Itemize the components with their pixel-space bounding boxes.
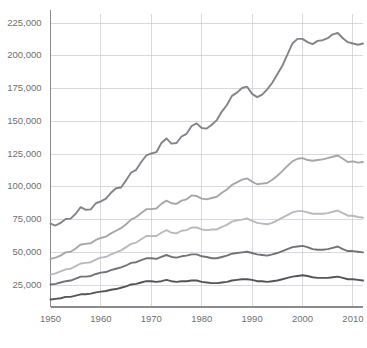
x-tick-label-4: 1990 <box>242 313 263 324</box>
series-line-bottom-line <box>51 275 364 299</box>
y-tick-label-0: 25,000 <box>12 279 41 290</box>
series-line-third-line <box>51 210 364 274</box>
x-tick-label-3: 1980 <box>191 313 212 324</box>
y-tick-label-6: 175,000 <box>7 82 41 93</box>
x-tick-label-0: 1950 <box>40 313 61 324</box>
chart-canvas: 25,00050,00075,000100,000125,000150,0001… <box>0 0 367 348</box>
series-line-top-line <box>51 33 364 226</box>
y-axis-tick-labels: 25,00050,00075,000100,000125,000150,0001… <box>7 17 41 290</box>
x-axis-tick-labels: 1950196019701980199020002010 <box>40 313 364 324</box>
y-tick-label-1: 50,000 <box>12 246 41 257</box>
x-tick-label-2: 1970 <box>141 313 162 324</box>
y-tick-label-7: 200,000 <box>7 49 41 60</box>
x-tick-label-1: 1960 <box>90 313 111 324</box>
data-series-group <box>51 33 364 300</box>
y-tick-label-2: 75,000 <box>12 213 41 224</box>
y-tick-label-3: 100,000 <box>7 180 41 191</box>
x-tick-label-5: 2000 <box>292 313 313 324</box>
y-tick-label-4: 125,000 <box>7 148 41 159</box>
horizontal-gridlines <box>51 23 364 285</box>
y-tick-label-5: 150,000 <box>7 115 41 126</box>
series-line-second-line <box>51 155 364 258</box>
x-tick-label-6: 2010 <box>342 313 363 324</box>
line-chart: 25,00050,00075,000100,000125,000150,0001… <box>0 0 367 348</box>
y-tick-label-8: 225,000 <box>7 17 41 28</box>
